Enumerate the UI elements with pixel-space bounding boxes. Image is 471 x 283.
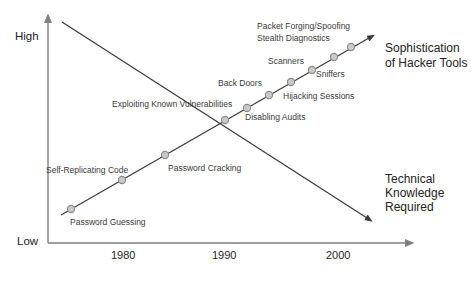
point-label-password-cracking: Password Cracking — [168, 164, 241, 173]
data-point-marker — [347, 43, 354, 50]
data-point-marker — [243, 104, 250, 111]
rising-trend-line — [61, 38, 369, 215]
data-point-marker — [265, 91, 272, 98]
data-point-marker — [287, 78, 294, 85]
rising-trend-caption-line2: of Hacker Tools — [385, 56, 467, 71]
y-axis-low-label: Low — [17, 236, 38, 248]
data-point-marker — [330, 53, 337, 60]
x-tick-1990: 1990 — [212, 250, 236, 261]
x-tick-2000: 2000 — [326, 250, 350, 261]
point-label-exploiting-known-vulnerabilities: Exploiting Known Vulnerabilities — [112, 100, 232, 109]
point-label-hijacking-sessions: Hijacking Sessions — [283, 92, 354, 101]
falling-trend-caption-line3: Required — [385, 200, 434, 215]
data-point-marker — [221, 116, 228, 123]
falling-trend-caption-line2: Knowledge — [385, 186, 444, 201]
point-label-scanners: Scanners — [268, 57, 304, 66]
point-label-stealth-diagnostics: Stealth Diagnostics — [257, 34, 330, 43]
point-label-packet-forging-spoofing: Packet Forging/Spoofing — [257, 22, 350, 31]
hacker-tools-sophistication-chart: High Low 1980 1990 2000 Sophistication o… — [0, 0, 471, 283]
data-point-marker — [67, 205, 74, 212]
point-label-disabling-audits: Disabling Audits — [245, 113, 305, 122]
point-label-self-replicating-code: Self-Replicating Code — [46, 166, 128, 175]
falling-trend-caption-line1: Technical — [385, 172, 435, 187]
data-point-marker — [118, 176, 125, 183]
point-label-back-doors: Back Doors — [218, 79, 262, 88]
rising-trend-caption-line1: Sophistication — [385, 41, 460, 56]
point-label-password-guessing: Password Guessing — [70, 218, 146, 227]
point-label-sniffers: Sniffers — [316, 70, 345, 79]
data-point-marker — [161, 151, 168, 158]
y-axis-high-label: High — [15, 31, 39, 43]
data-point-marker — [308, 66, 315, 73]
x-tick-1980: 1980 — [111, 250, 135, 261]
